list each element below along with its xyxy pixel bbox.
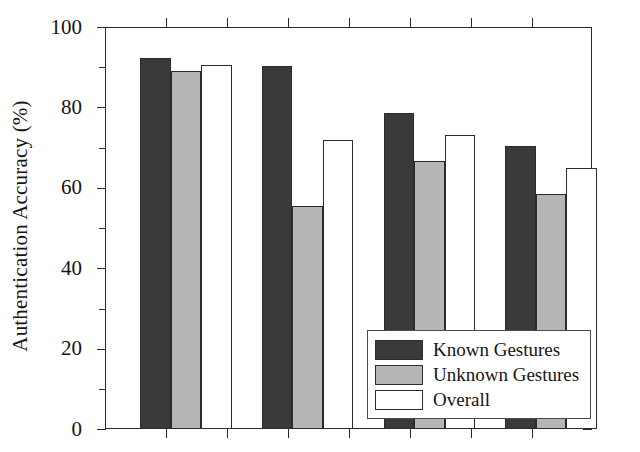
bar-group2-unknown: [292, 206, 323, 430]
legend-swatch-unknown-gestures: [375, 365, 423, 385]
y-tick-label-60: 60: [20, 177, 82, 198]
x-minor-tick-2: [349, 429, 350, 438]
bar-chart-figure: Authentication Accuracy (%) 100 80 60 40…: [0, 0, 640, 452]
x-top-minor-tick-3: [471, 18, 472, 27]
bar-group1-overall: [201, 65, 232, 429]
y-tick-label-100: 100: [20, 17, 82, 38]
x-top-tick-1: [166, 18, 167, 27]
y-tick-label-0: 0: [20, 419, 82, 440]
x-minor-tick-3: [471, 429, 472, 438]
x-top-minor-tick-1: [227, 18, 228, 27]
x-minor-tick-1: [227, 429, 228, 438]
legend-swatch-known-gestures: [375, 340, 423, 360]
x-top-minor-tick-2: [349, 18, 350, 27]
legend-swatch-overall: [375, 390, 423, 410]
y-right-tick-0: [583, 429, 592, 430]
legend-row-known: Known Gestures: [375, 337, 583, 362]
x-top-tick-2: [288, 18, 289, 27]
legend-row-unknown: Unknown Gestures: [375, 362, 583, 387]
bar-group1-unknown: [171, 71, 202, 429]
bar-group2-known: [262, 66, 293, 429]
x-tick-1: [166, 429, 167, 438]
x-tick-2: [288, 429, 289, 438]
legend-row-overall: Overall: [375, 387, 583, 412]
bar-group2-overall: [323, 140, 354, 429]
x-top-tick-3: [410, 18, 411, 27]
x-top-tick-4: [532, 18, 533, 27]
y-tick-0: [97, 429, 106, 430]
legend-label-overall: Overall: [433, 390, 490, 409]
y-axis-title: Authentication Accuracy (%): [0, 0, 40, 452]
legend-label-unknown-gestures: Unknown Gestures: [433, 365, 579, 384]
y-tick-label-80: 80: [20, 97, 82, 118]
chart-legend: Known Gestures Unknown Gestures Overall: [367, 330, 591, 419]
x-tick-4: [532, 429, 533, 438]
legend-label-known-gestures: Known Gestures: [433, 340, 560, 359]
x-tick-3: [410, 429, 411, 438]
bar-group1-known: [140, 58, 171, 429]
y-tick-label-40: 40: [20, 258, 82, 279]
y-tick-label-20: 20: [20, 338, 82, 359]
